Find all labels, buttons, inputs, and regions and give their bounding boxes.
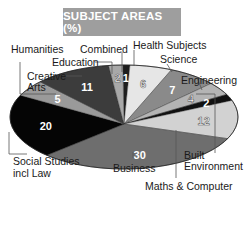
label-science: Science: [160, 53, 197, 65]
label-social-studies-line1: Social Studies: [13, 155, 80, 167]
slice-value: 20: [40, 120, 52, 132]
slice-value: 11: [81, 81, 93, 93]
slice-value: 6: [140, 78, 146, 90]
label-health-subjects: Health Subjects: [133, 39, 207, 51]
slice-value: 4: [188, 93, 195, 105]
slice-value: 2: [114, 72, 120, 84]
slice-value: 30: [134, 149, 146, 161]
label-humanities: Humanities: [11, 43, 64, 55]
label-education: Education: [52, 56, 99, 68]
label-creative-arts-line2: Arts: [27, 81, 46, 93]
label-built-environment-line2: Environment: [184, 160, 243, 172]
label-maths-computer: Maths & Computer: [145, 180, 233, 192]
slice-value: 1: [123, 72, 129, 84]
label-business: Business: [113, 162, 156, 174]
slice-value: 5: [55, 93, 61, 105]
slice-value: 2: [203, 97, 209, 109]
label-engineering: Engineering: [181, 74, 237, 86]
slice-value: 12: [198, 115, 210, 127]
label-combined: Combined: [80, 43, 128, 55]
label-social-studies-line2: incl Law: [13, 167, 51, 179]
slice-value: 7: [169, 84, 175, 96]
